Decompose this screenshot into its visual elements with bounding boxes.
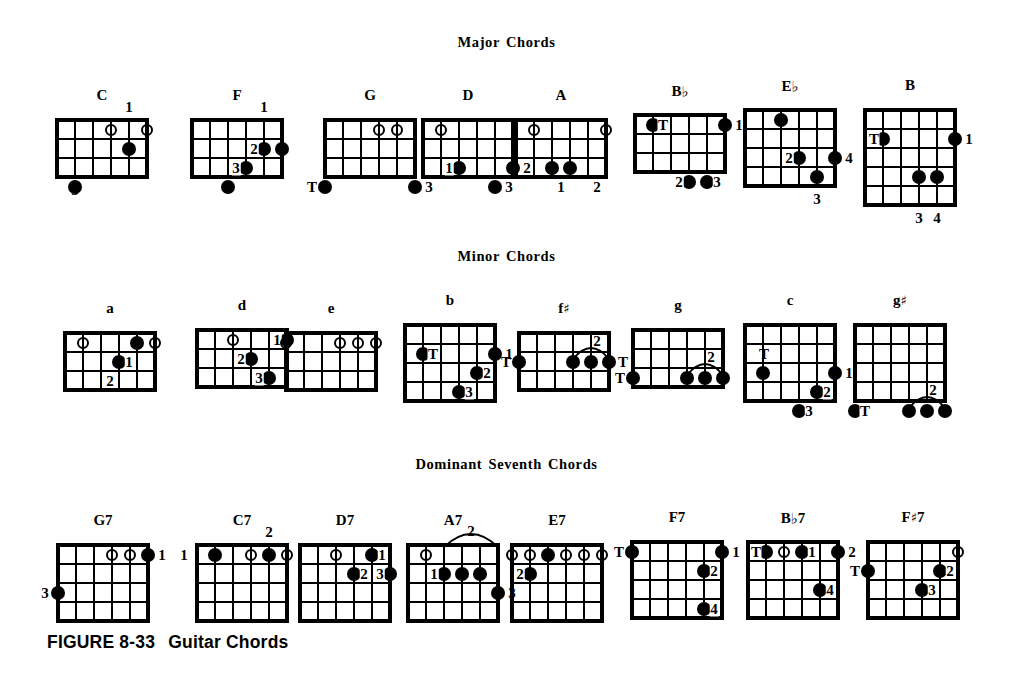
- finger-number-label: 3: [915, 211, 924, 226]
- open-string-marker: [578, 549, 590, 561]
- finger-number-label: 1: [125, 100, 134, 115]
- chord-diagram-gsharp: g♯T2: [855, 325, 945, 401]
- thumb-label: T: [758, 346, 769, 361]
- open-string-marker: [524, 549, 536, 561]
- string-line: [190, 120, 193, 177]
- open-string-marker: [952, 546, 964, 558]
- open-string-marker: [105, 124, 117, 136]
- fret-line: [195, 385, 288, 388]
- fret-line: [190, 175, 283, 178]
- finger-dot: [930, 170, 944, 184]
- chord-diagram-c: C13: [57, 120, 147, 177]
- string-line: [342, 120, 345, 177]
- chord-diagram-e7: E72: [512, 545, 602, 621]
- fret-line: [323, 118, 416, 121]
- open-string-marker: [141, 124, 153, 136]
- fret-line: [633, 113, 726, 116]
- fret-line: [284, 331, 377, 334]
- chord-name: g: [633, 297, 723, 314]
- chord-diagram-d: D123: [423, 120, 513, 177]
- fret-line: [630, 616, 723, 619]
- fret-line: [517, 370, 610, 373]
- open-string-marker: [373, 124, 385, 136]
- chord-name: E7: [512, 512, 602, 529]
- fret-line: [743, 362, 836, 365]
- thumb-label: T: [614, 370, 625, 385]
- finger-number-label: 3: [71, 183, 80, 198]
- chord-diagram-fsharp7: F♯7T23: [868, 542, 958, 618]
- fret-line: [743, 343, 836, 346]
- thumb-label: T: [613, 544, 624, 559]
- chord-name: F7: [632, 509, 722, 526]
- open-string-marker: [506, 549, 518, 561]
- chord-diagram-a7: A7132: [408, 545, 498, 621]
- finger-number-label: 3: [805, 403, 814, 418]
- string-line: [918, 110, 921, 205]
- fret-line: [853, 362, 946, 365]
- finger-dot: [774, 113, 788, 127]
- finger-dot: [437, 567, 451, 581]
- finger-dot: [718, 118, 732, 132]
- fret-line: [514, 138, 607, 141]
- fret-line: [403, 399, 496, 402]
- finger-dot: [408, 180, 422, 194]
- chord-name: f♯: [519, 300, 609, 317]
- string-line: [100, 333, 103, 390]
- fret-line: [630, 579, 723, 582]
- open-string-marker: [420, 549, 432, 561]
- string-line: [63, 333, 66, 390]
- thumb-label: T: [306, 179, 317, 194]
- fret-line: [743, 166, 836, 169]
- finger-number-label: 1: [845, 365, 854, 380]
- finger-dot: [828, 366, 842, 380]
- fret-line: [406, 601, 499, 604]
- fret-line: [56, 563, 149, 566]
- finger-number-label: 1: [808, 544, 817, 559]
- chord-diagram-g: gT2: [633, 330, 723, 387]
- open-string-marker: [560, 549, 572, 561]
- barre-finger-label: 2: [707, 349, 716, 364]
- open-string-marker: [600, 124, 612, 136]
- section-title-minor: Minor Chords: [0, 248, 1013, 265]
- fret-line: [863, 166, 956, 169]
- finger-number-label: 2: [675, 174, 684, 189]
- chord-name: B: [865, 77, 955, 94]
- finger-number-label: 3: [928, 582, 937, 597]
- finger-number-label: 2: [106, 373, 115, 388]
- finger-number-label: 3: [505, 179, 514, 194]
- finger-dot: [262, 548, 276, 562]
- finger-number-label: 1: [430, 566, 439, 581]
- finger-number-label: 2: [710, 563, 719, 578]
- finger-number-label: 1: [260, 100, 269, 115]
- string-line: [863, 110, 866, 205]
- fret-line: [510, 582, 603, 585]
- string-line: [195, 330, 198, 387]
- chord-diagram-g: GT3: [325, 120, 415, 177]
- fret-line: [853, 323, 946, 326]
- finger-dot: [452, 161, 466, 175]
- open-string-marker: [281, 549, 293, 561]
- fret-line: [866, 598, 959, 601]
- fret-line: [630, 598, 723, 601]
- string-line: [536, 333, 539, 390]
- string-line: [514, 120, 517, 177]
- thumb-label: T: [868, 131, 879, 146]
- fret-line: [298, 619, 391, 622]
- fret-line: [403, 362, 496, 365]
- fret-line: [421, 118, 514, 121]
- fret-line: [866, 579, 959, 582]
- finger-dot: [318, 180, 332, 194]
- barre-arc: [896, 384, 958, 410]
- fret-line: [630, 540, 723, 543]
- fret-line: [298, 601, 391, 604]
- finger-dot: [141, 548, 155, 562]
- finger-number-label: 3: [813, 192, 822, 207]
- finger-number-label: 1: [158, 547, 167, 562]
- chord-diagram-f7: F7T124: [632, 542, 722, 618]
- finger-dot: [130, 336, 144, 350]
- finger-number-label: 2: [250, 141, 259, 156]
- fret-line: [56, 601, 149, 604]
- chord-diagram-d7: D7123: [300, 545, 390, 621]
- open-string-marker: [124, 549, 136, 561]
- string-line: [650, 330, 653, 387]
